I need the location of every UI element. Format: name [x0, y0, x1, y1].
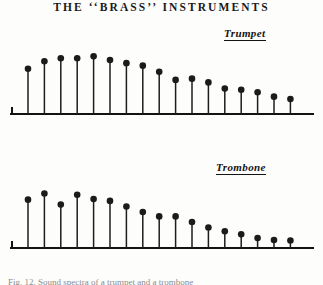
- harmonic-4: [74, 191, 81, 248]
- harmonic-17: [287, 96, 294, 114]
- harmonic-16: [271, 237, 278, 248]
- stem-dot: [172, 213, 179, 220]
- stem-dot: [90, 53, 97, 60]
- stem-dot: [238, 231, 245, 238]
- stem-dot: [107, 57, 114, 64]
- stem-dot: [107, 198, 114, 205]
- stem-dot: [172, 77, 179, 84]
- stem-dot: [222, 85, 229, 92]
- figure-caption: Fig. 12. Sound spectra of a trumpet and …: [8, 277, 308, 285]
- harmonic-10: [172, 213, 179, 248]
- harmonic-1: [25, 196, 32, 248]
- stem-dot: [25, 196, 32, 203]
- page-title: THE ‘‘BRASS’’ INSTRUMENTS: [0, 1, 323, 13]
- stem-dot: [189, 219, 196, 226]
- harmonic-14: [238, 231, 245, 248]
- harmonic-5: [90, 53, 97, 114]
- harmonic-16: [271, 93, 278, 114]
- harmonic-6: [107, 198, 114, 248]
- harmonic-2: [41, 190, 48, 248]
- chart-panel-trumpet: Trumpet: [0, 28, 323, 138]
- harmonic-7: [123, 203, 130, 248]
- stem-plot-trombone-svg: [0, 162, 323, 272]
- harmonic-13: [222, 85, 229, 114]
- stem-plot-trumpet: [0, 28, 323, 138]
- stem-dot: [189, 75, 196, 82]
- harmonic-17: [287, 237, 294, 248]
- stem-dot: [271, 93, 278, 100]
- harmonic-7: [123, 60, 130, 114]
- stem-dot: [254, 89, 261, 96]
- harmonic-13: [222, 228, 229, 248]
- stem-dot: [222, 228, 229, 235]
- stem-dot: [205, 224, 212, 231]
- stem-dot: [74, 55, 81, 62]
- harmonic-4: [74, 55, 81, 114]
- stem-dot: [156, 69, 163, 76]
- stem-plot-trumpet-svg: [0, 28, 323, 138]
- harmonic-3: [58, 201, 65, 248]
- stem-dot: [140, 209, 147, 216]
- stem-dot: [41, 190, 48, 197]
- harmonic-11: [189, 75, 196, 114]
- harmonic-9: [156, 69, 163, 114]
- stem-dot: [90, 196, 97, 203]
- stem-dot: [123, 203, 130, 210]
- harmonic-12: [205, 79, 212, 114]
- harmonic-1: [25, 65, 32, 114]
- figure-page: THE ‘‘BRASS’’ INSTRUMENTS Trumpet Trombo…: [0, 0, 323, 285]
- stem-plot-trombone: [0, 162, 323, 272]
- harmonic-2: [41, 58, 48, 114]
- harmonic-15: [254, 235, 261, 248]
- stem-dot: [238, 87, 245, 94]
- stem-dot: [58, 55, 65, 62]
- stem-dot: [25, 65, 32, 72]
- stem-dot: [41, 58, 48, 65]
- stem-dot: [58, 201, 65, 208]
- harmonic-14: [238, 87, 245, 114]
- harmonic-9: [156, 213, 163, 248]
- chart-panel-trombone: Trombone: [0, 162, 323, 272]
- stem-dot: [74, 191, 81, 198]
- harmonic-3: [58, 55, 65, 114]
- stem-dot: [287, 96, 294, 103]
- stem-dot: [287, 237, 294, 244]
- harmonic-8: [140, 209, 147, 248]
- stem-dot: [156, 213, 163, 220]
- stem-dot: [271, 237, 278, 244]
- harmonic-11: [189, 219, 196, 248]
- stem-dot: [254, 235, 261, 242]
- stem-dot: [123, 60, 130, 67]
- stem-dot: [140, 62, 147, 69]
- harmonic-8: [140, 62, 147, 114]
- harmonic-15: [254, 89, 261, 114]
- harmonic-6: [107, 57, 114, 114]
- harmonic-12: [205, 224, 212, 248]
- harmonic-5: [90, 196, 97, 248]
- stem-dot: [205, 79, 212, 86]
- harmonic-10: [172, 77, 179, 114]
